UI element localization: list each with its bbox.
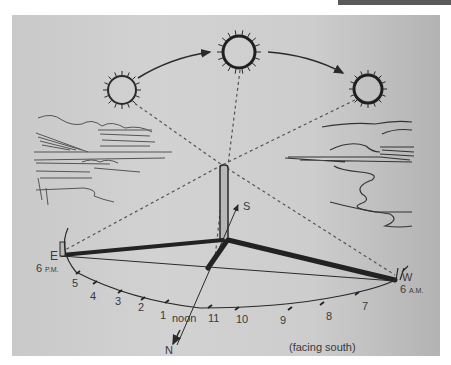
hour-label-7: 7 [362, 300, 368, 312]
sun-ray [104, 96, 108, 98]
sun-ray [242, 30, 243, 35]
east-time-suffix: P.M. [45, 266, 59, 273]
sun-ray [109, 77, 112, 80]
morning-sun-icon [103, 71, 141, 109]
hour-tick-mark [93, 281, 97, 284]
sun-ray [235, 30, 236, 35]
sun-ray [382, 82, 386, 84]
sun-ray [128, 104, 130, 108]
hour-tick-mark [320, 302, 324, 305]
sun-ray [374, 71, 376, 75]
sun-ray [136, 96, 140, 98]
sun-ray [128, 72, 130, 76]
sun-ray [361, 103, 363, 107]
west-time-suffix: A.M. [409, 287, 423, 294]
noon-label: noon [172, 312, 196, 324]
hour-label-3: 3 [115, 295, 121, 307]
hour-label-9: 9 [280, 314, 286, 326]
sun-ray [222, 63, 226, 66]
sun-ray [379, 100, 382, 103]
east-label: E [50, 249, 58, 263]
sun-ray [218, 44, 223, 46]
sun-ray [255, 58, 260, 60]
sun-ray [248, 33, 251, 37]
sun-ray [374, 103, 376, 107]
sun-ray [350, 82, 354, 84]
east-time-label: 6 [36, 262, 42, 274]
sun-ray [133, 101, 136, 104]
hour-label-1: 1 [160, 309, 166, 321]
hour-tick-mark [165, 300, 169, 303]
sun-path-diagram: E 6 P.M. W 6 A.M. S N 5 4 3 2 1 noon 11 … [0, 0, 451, 365]
sun-ray [248, 67, 251, 71]
left-landscape-sketch [34, 115, 172, 205]
noon-sun-icon [217, 30, 261, 73]
sun-ray [355, 76, 358, 79]
sun-ray [252, 38, 256, 41]
sun-ray [382, 95, 386, 97]
sun-ray [133, 77, 136, 80]
hour-label-5: 5 [72, 277, 78, 289]
sun-path-arrow-left [138, 52, 210, 78]
hour-label-10: 10 [236, 313, 248, 325]
sun-ray [252, 63, 256, 66]
north-label: N [165, 344, 173, 356]
sun-ray [235, 69, 236, 74]
right-landscape-sketch [285, 121, 414, 227]
hour-label-2: 2 [138, 301, 144, 313]
sun-ray [255, 44, 260, 46]
sun-ray [218, 58, 223, 60]
evening-sun-icon [349, 70, 387, 108]
sun-ray [115, 72, 117, 76]
sun-path-arrow-right [268, 52, 343, 73]
sun-ray [242, 69, 243, 74]
sun-ray [228, 33, 231, 37]
west-time-label: 6 [400, 283, 406, 295]
hour-label-4: 4 [90, 290, 96, 302]
sun-ray [379, 76, 382, 79]
south-arrow [177, 205, 238, 345]
sun-ray [104, 83, 108, 85]
north-arrow [173, 330, 180, 344]
sun-ray [228, 67, 231, 71]
sun-ray [136, 83, 140, 85]
west-label: W [402, 271, 413, 283]
sun-ray [222, 38, 226, 41]
sun-ray [361, 71, 363, 75]
south-label: S [243, 200, 250, 212]
hour-label-11: 11 [208, 312, 219, 324]
hour-label-8: 8 [326, 310, 332, 322]
sun-ray [350, 95, 354, 97]
sun-ray [109, 101, 112, 104]
sun-ray [115, 104, 117, 108]
hour-tick-mark [288, 307, 292, 310]
facing-caption: (facing south) [289, 341, 356, 353]
